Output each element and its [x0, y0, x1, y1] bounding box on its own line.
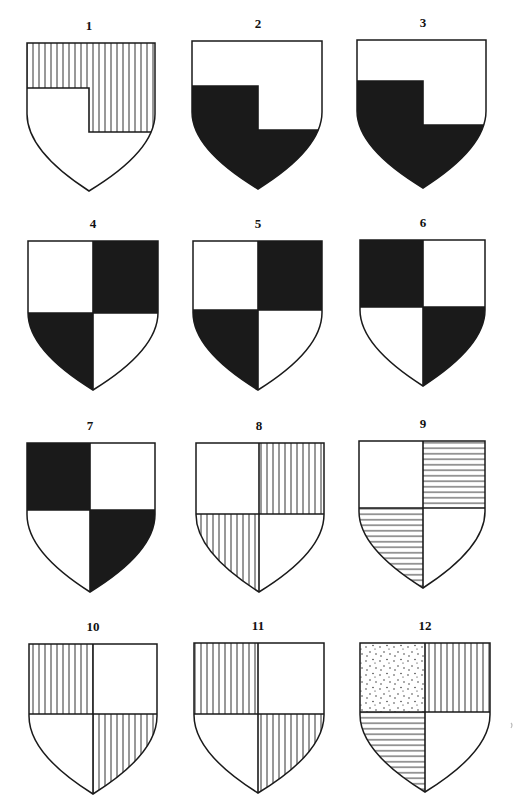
figure-number-label: 5: [255, 216, 262, 232]
quarter-3: [27, 510, 90, 597]
quarter-3: [360, 712, 425, 797]
quarter-1: [28, 241, 93, 313]
quarter-4: [93, 714, 157, 799]
figure-number-label: 12: [419, 618, 432, 634]
quarter-2: [90, 443, 155, 510]
figure-number-label: 3: [420, 15, 427, 31]
quarter-2: [93, 644, 157, 714]
figure-number-label: 11: [252, 618, 264, 634]
figure-number-label: 8: [256, 418, 263, 434]
quarter-3: [28, 313, 93, 395]
shield-4: [28, 241, 158, 395]
quarter-3: [196, 514, 259, 597]
quarter-2: [258, 643, 324, 714]
figure-number-label: 2: [255, 16, 262, 32]
shield-2: [192, 41, 322, 194]
quarter-1: [193, 241, 258, 310]
quarter-3: [29, 714, 93, 799]
shield-7: [27, 443, 155, 597]
quarter-4: [423, 508, 485, 593]
quarter-2: [259, 443, 324, 514]
quarter-4: [258, 310, 322, 395]
quarter-1: [360, 240, 423, 307]
quarter-1: [194, 643, 258, 714]
quarter-1: [359, 441, 423, 508]
shield-11: [194, 643, 324, 798]
shield-6: [360, 240, 485, 391]
shield-3: [357, 40, 486, 193]
shield-10: [29, 644, 157, 799]
quarter-3: [359, 508, 423, 593]
figure-number-label: 9: [420, 416, 427, 432]
shield-12: [360, 643, 490, 797]
quarter-2: [93, 241, 158, 313]
quarter-2: [258, 241, 322, 310]
heraldry-plate: [0, 0, 531, 812]
quarter-3: [193, 310, 258, 395]
figure-number-label: 4: [90, 216, 97, 232]
figure-number-label: 1: [86, 18, 93, 34]
quarter-1: [27, 443, 90, 510]
quarter-1: [29, 644, 93, 714]
shield-8: [196, 443, 324, 597]
quarter-1: [360, 643, 425, 712]
quarter-1: [196, 443, 259, 514]
quarter-4: [90, 510, 155, 597]
shield-9: [359, 441, 485, 593]
figure-number-label: 7: [87, 418, 94, 434]
quarter-2: [423, 240, 485, 307]
quarter-4: [93, 313, 158, 395]
quarter-2: [425, 643, 490, 712]
shield-1: [27, 43, 155, 196]
quarter-3: [194, 714, 258, 798]
quarter-4: [258, 714, 324, 798]
quarter-4: [259, 514, 324, 597]
quarter-4: [425, 712, 490, 797]
quarter-4: [423, 307, 485, 391]
figure-number-label: 10: [87, 619, 100, 635]
quarter-3: [360, 307, 423, 391]
quarter-2: [423, 441, 485, 508]
figure-number-label: 6: [420, 215, 427, 231]
stray-mark: [511, 723, 512, 728]
shield-5: [193, 241, 322, 395]
